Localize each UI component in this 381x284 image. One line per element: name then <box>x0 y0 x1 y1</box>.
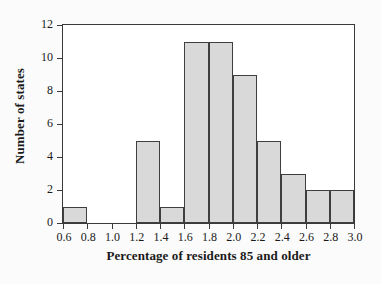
histogram-bar <box>257 141 281 224</box>
x-axis-tick-label: 1.6 <box>178 231 193 243</box>
y-axis-tick-label: 4 <box>47 150 53 162</box>
x-axis-tick: 1.6 <box>184 223 185 229</box>
y-axis-tick: 2 <box>57 190 63 191</box>
y-axis-tick: 8 <box>57 91 63 92</box>
x-axis-tick: 1.2 <box>136 223 137 229</box>
histogram-bar <box>209 42 233 224</box>
x-axis-tick: 2.4 <box>281 223 282 229</box>
y-axis-title-text: Number of states <box>12 68 28 164</box>
y-axis-tick: 4 <box>57 157 63 158</box>
x-axis-tick: 1.8 <box>209 223 210 229</box>
histogram-bar <box>306 190 330 223</box>
x-axis-tick-label: 0.6 <box>57 231 72 243</box>
x-axis-tick: 1.0 <box>112 223 113 229</box>
x-axis-tick: 2.6 <box>306 223 307 229</box>
y-axis-tick-label: 0 <box>47 216 53 228</box>
x-axis-tick-label: 1.0 <box>105 231 120 243</box>
bars-container <box>63 25 354 223</box>
x-axis-tick-label: 1.4 <box>154 231 169 243</box>
y-axis-tick-label: 2 <box>47 183 53 195</box>
x-axis-tick: 0.6 <box>63 223 64 229</box>
y-axis-tick-label: 10 <box>41 51 53 63</box>
x-axis-tick-label: 2.2 <box>251 231 266 243</box>
x-axis-tick: 2.8 <box>330 223 331 229</box>
y-axis-tick: 12 <box>57 25 63 26</box>
plot-area: 0246810120.60.81.01.21.41.61.82.02.22.42… <box>62 24 355 224</box>
y-axis-tick: 6 <box>57 124 63 125</box>
x-axis-tick-label: 1.2 <box>129 231 144 243</box>
y-axis-tick-label: 12 <box>41 18 53 30</box>
x-axis-tick-label: 3.0 <box>348 231 363 243</box>
x-axis-tick-label: 2.4 <box>275 231 290 243</box>
histogram-bar <box>63 207 87 224</box>
histogram-bar <box>233 75 257 224</box>
x-axis-tick: 2.2 <box>257 223 258 229</box>
histogram-bar <box>330 190 354 223</box>
x-axis-tick: 1.4 <box>160 223 161 229</box>
x-axis-tick: 3.0 <box>354 223 355 229</box>
y-axis-title: Number of states <box>11 24 29 208</box>
y-axis-tick-label: 8 <box>47 84 53 96</box>
x-axis-tick-label: 2.6 <box>299 231 314 243</box>
y-axis-tick: 10 <box>57 58 63 59</box>
y-axis-tick-label: 6 <box>47 117 53 129</box>
histogram-bar <box>160 207 184 224</box>
histogram-bar <box>184 42 208 224</box>
histogram-figure: Number of states 0246810120.60.81.01.21.… <box>0 0 381 284</box>
x-axis-tick-label: 1.8 <box>202 231 217 243</box>
histogram-bar <box>281 174 305 224</box>
x-axis-tick-label: 0.8 <box>81 231 96 243</box>
x-axis-tick: 2.0 <box>233 223 234 229</box>
x-axis-title: Percentage of residents 85 and older <box>62 248 355 264</box>
histogram-bar <box>136 141 160 224</box>
x-axis-tick: 0.8 <box>87 223 88 229</box>
x-axis-tick-label: 2.8 <box>323 231 338 243</box>
x-axis-tick-label: 2.0 <box>226 231 241 243</box>
